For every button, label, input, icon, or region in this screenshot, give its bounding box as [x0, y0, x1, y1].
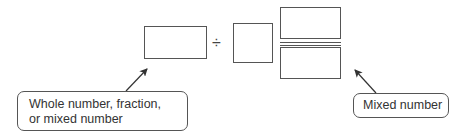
dividend-callout-line1: Whole number, fraction, — [29, 97, 187, 112]
dividend-callout: Whole number, fraction, or mixed number — [17, 91, 188, 131]
divisor-callout-text: Mixed number — [363, 98, 448, 113]
dividend-callout-line2: or mixed number — [29, 112, 187, 127]
divisor-callout: Mixed number — [353, 93, 449, 118]
arrow-to-dividend — [126, 69, 147, 91]
arrow-to-mixed-number — [355, 70, 376, 93]
